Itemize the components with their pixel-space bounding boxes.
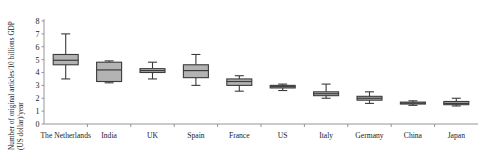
x-category-label-france: France (229, 131, 250, 140)
iqr-box[interactable] (227, 79, 252, 85)
y-tick-label-3: 3 (36, 81, 40, 90)
x-category-label-japan: Japan (448, 131, 465, 140)
boxplot-india[interactable] (97, 61, 122, 83)
y-tick-label-8: 8 (36, 17, 40, 26)
x-category-label-italy: Italy (319, 131, 333, 140)
boxplot-japan[interactable] (444, 98, 469, 106)
boxplot-canvas: 012345678The NetherlandsIndiaUKSpainFran… (0, 0, 488, 156)
boxplot-uk[interactable] (140, 62, 165, 79)
x-category-label-india: India (101, 131, 117, 140)
x-category-label-germany: Germany (355, 131, 383, 140)
boxplot-spain[interactable] (183, 54, 208, 85)
x-category-label-uk: UK (147, 131, 158, 140)
x-category-label-the-netherlands: The Netherlands (40, 131, 90, 140)
y-tick-label-7: 7 (36, 30, 40, 39)
iqr-box[interactable] (183, 65, 208, 78)
iqr-box[interactable] (53, 54, 78, 64)
y-tick-label-1: 1 (36, 107, 40, 116)
boxplot-us[interactable] (270, 84, 295, 90)
boxplot-china[interactable] (400, 101, 425, 106)
x-category-label-china: China (404, 131, 423, 140)
y-tick-label-2: 2 (36, 94, 40, 103)
y-tick-label-4: 4 (36, 68, 40, 77)
y-tick-label-0: 0 (36, 120, 40, 129)
boxplot-italy[interactable] (314, 84, 339, 98)
boxplot-figure: Number of original articles/10 billions … (0, 0, 488, 156)
y-tick-label-6: 6 (36, 43, 40, 52)
boxplot-the-netherlands[interactable] (53, 34, 78, 79)
x-category-label-spain: Spain (187, 131, 205, 140)
iqr-box[interactable] (97, 62, 122, 81)
boxplot-france[interactable] (227, 76, 252, 91)
x-category-label-us: US (278, 131, 288, 140)
boxplot-germany[interactable] (357, 92, 382, 104)
y-tick-label-5: 5 (36, 56, 40, 65)
